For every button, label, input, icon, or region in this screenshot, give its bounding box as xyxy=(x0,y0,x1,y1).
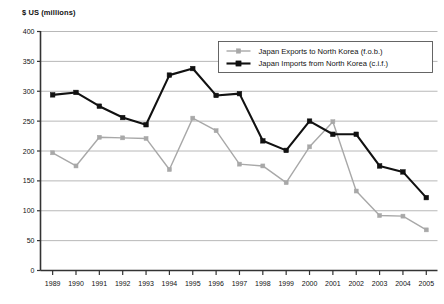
svg-text:1997: 1997 xyxy=(232,280,248,287)
svg-text:2003: 2003 xyxy=(372,280,388,287)
svg-text:2001: 2001 xyxy=(325,280,341,287)
svg-text:1995: 1995 xyxy=(185,280,201,287)
svg-text:350: 350 xyxy=(23,58,35,65)
line-chart-plot: 050100150200250300350400 198919901991199… xyxy=(0,0,444,304)
svg-text:1993: 1993 xyxy=(138,280,154,287)
svg-text:1998: 1998 xyxy=(255,280,271,287)
svg-text:1994: 1994 xyxy=(162,280,178,287)
svg-text:250: 250 xyxy=(23,118,35,125)
svg-text:1991: 1991 xyxy=(92,280,108,287)
svg-text:200: 200 xyxy=(23,148,35,155)
svg-text:Japan Exports to North Korea (: Japan Exports to North Korea (f.o.b.) xyxy=(259,47,384,56)
svg-text:0: 0 xyxy=(31,267,35,274)
svg-text:Japan Imports from North Korea: Japan Imports from North Korea (c.i.f.) xyxy=(259,59,389,68)
svg-text:1990: 1990 xyxy=(68,280,84,287)
svg-text:100: 100 xyxy=(23,207,35,214)
y-axis-ticks: 050100150200250300350400 xyxy=(23,28,41,274)
svg-text:2004: 2004 xyxy=(395,280,411,287)
x-axis-ticks: 1989199019911992199319941995199619971998… xyxy=(45,271,434,287)
chart-legend: Japan Exports to North Korea (f.o.b.)Jap… xyxy=(219,42,433,73)
svg-text:2002: 2002 xyxy=(348,280,364,287)
svg-text:50: 50 xyxy=(27,237,35,244)
svg-text:1996: 1996 xyxy=(208,280,224,287)
chart-container: $ US (millions) 050100150200250300350400… xyxy=(0,0,444,304)
svg-text:2005: 2005 xyxy=(419,280,435,287)
svg-text:1992: 1992 xyxy=(115,280,131,287)
svg-text:1999: 1999 xyxy=(278,280,294,287)
svg-text:300: 300 xyxy=(23,88,35,95)
svg-text:150: 150 xyxy=(23,177,35,184)
svg-text:1989: 1989 xyxy=(45,280,61,287)
svg-text:400: 400 xyxy=(23,28,35,35)
svg-text:2000: 2000 xyxy=(302,280,318,287)
